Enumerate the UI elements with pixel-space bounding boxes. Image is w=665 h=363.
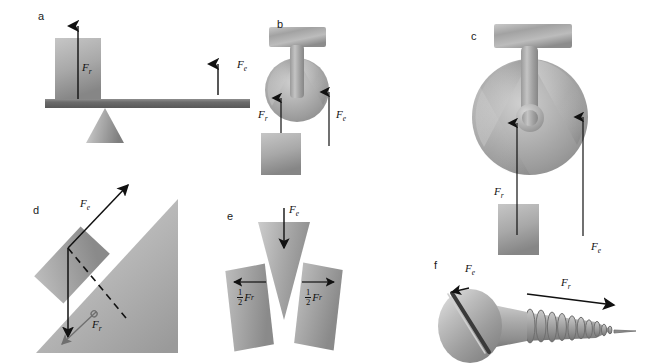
panel-b-force-label-fr: Fr	[258, 108, 268, 123]
panel-letter-d: d	[33, 204, 39, 216]
panel-e-wedge	[225, 208, 343, 352]
panel-c-wheel-and-axle-large	[469, 24, 588, 255]
panel-letter-a: a	[38, 10, 44, 22]
panel-e-force-label-half-fr-left: 12Fr	[237, 288, 254, 307]
load-block-large	[498, 204, 539, 255]
panel-d-force-label-fr: Fr	[92, 318, 102, 333]
lever-bar	[45, 99, 250, 108]
figure-canvas	[0, 0, 665, 363]
arrow-fe-incline	[68, 185, 128, 248]
panel-e-force-label-half-fr-right: 12Fr	[305, 288, 322, 307]
screw-tip	[614, 330, 636, 333]
panel-b-force-label-fe: Fe	[336, 108, 346, 123]
handle-stem-small	[290, 45, 304, 98]
wedge-block-left-group	[225, 263, 274, 351]
panel-c-force-label-fr: Fr	[494, 185, 504, 200]
lever-fulcrum	[86, 108, 124, 143]
panel-f-screw	[438, 288, 636, 363]
panel-letter-e: e	[227, 210, 233, 222]
axle-core	[522, 110, 538, 126]
panel-letter-b: b	[277, 18, 283, 30]
panel-f-force-label-fr: Fr	[561, 276, 571, 291]
panel-e-force-label-fe: Fe	[289, 203, 299, 218]
panel-a-force-label-fr: Fr	[82, 61, 92, 76]
panel-c-force-label-fe: Fe	[591, 240, 601, 255]
panel-f-force-label-fe: Fe	[465, 262, 475, 277]
simple-machines-figure: a b c d e f Fr Fe Fr Fe Fr Fe Fe Fr Fe 1…	[0, 0, 665, 363]
panel-a-lever	[45, 26, 250, 143]
handle-crossbar-large	[494, 24, 572, 48]
load-block-small	[261, 133, 301, 175]
panel-d-force-label-fe: Fe	[80, 197, 90, 212]
panel-letter-f: f	[434, 259, 437, 271]
panel-d-inclined-plane	[34, 185, 178, 353]
wedge-block-left	[225, 263, 274, 351]
panel-a-force-label-fe: Fe	[237, 58, 247, 73]
panel-b-wheel-and-axle-small	[261, 27, 329, 175]
handle-crossbar-small	[269, 27, 326, 47]
panel-letter-c: c	[471, 30, 477, 42]
screw-head	[438, 289, 502, 363]
arrow-fr-screw	[527, 294, 614, 305]
